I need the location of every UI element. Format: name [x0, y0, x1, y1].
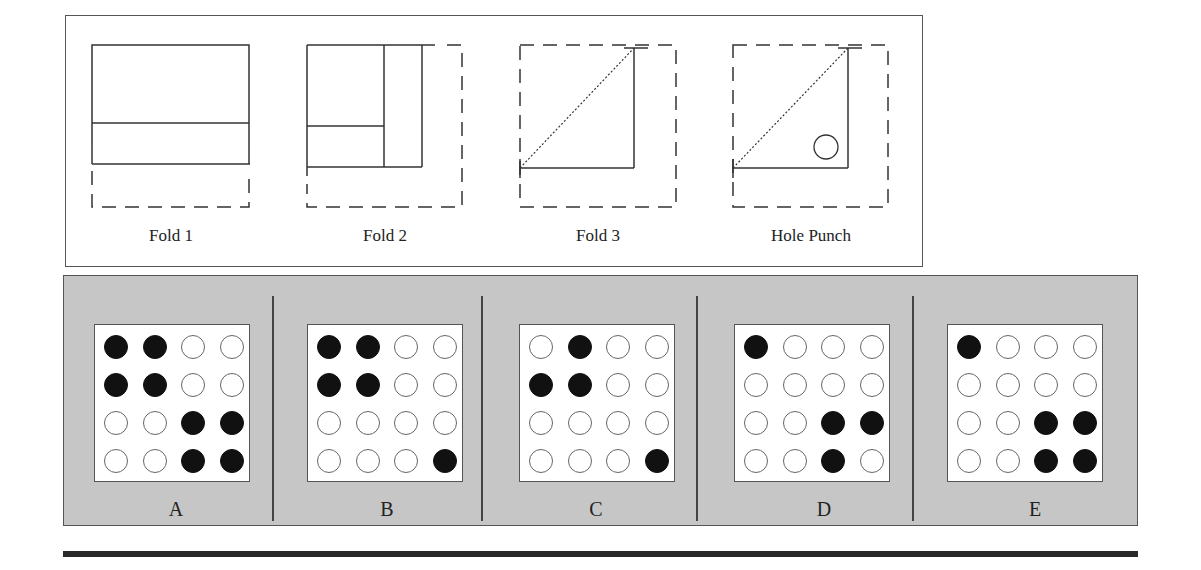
empty-hole-icon [821, 373, 845, 397]
hole-punch-label: Hole Punch [736, 226, 886, 246]
filled-hole-icon [529, 373, 553, 397]
filled-hole-icon [433, 449, 457, 473]
empty-hole-icon [606, 411, 630, 435]
empty-hole-icon [529, 411, 553, 435]
filled-hole-icon [104, 373, 128, 397]
hole-grid [94, 324, 250, 482]
empty-hole-icon [606, 335, 630, 359]
empty-hole-icon [394, 373, 418, 397]
filled-hole-icon [568, 335, 592, 359]
answer-options-panel: A B C D E [63, 275, 1138, 526]
hole-grid [734, 324, 890, 482]
filled-hole-icon [1073, 411, 1097, 435]
empty-hole-icon [996, 411, 1020, 435]
filled-hole-icon [1034, 449, 1058, 473]
filled-hole-icon [356, 335, 380, 359]
empty-hole-icon [317, 449, 341, 473]
empty-hole-icon [356, 411, 380, 435]
empty-hole-icon [529, 335, 553, 359]
answer-option-a[interactable]: A [64, 276, 272, 526]
fold-2-diagram [307, 45, 462, 207]
hole-grid [307, 324, 463, 482]
bottom-rule [63, 551, 1138, 557]
empty-hole-icon [645, 373, 669, 397]
empty-hole-icon [568, 411, 592, 435]
filled-hole-icon [104, 335, 128, 359]
empty-hole-icon [181, 335, 205, 359]
hole-grid [519, 324, 675, 482]
empty-hole-icon [821, 335, 845, 359]
punched-hole-icon [814, 135, 838, 159]
empty-hole-icon [860, 449, 884, 473]
empty-hole-icon [783, 373, 807, 397]
fold-1-label: Fold 1 [96, 226, 246, 246]
empty-hole-icon [744, 373, 768, 397]
empty-hole-icon [1073, 373, 1097, 397]
fold-3-label: Fold 3 [523, 226, 673, 246]
filled-hole-icon [317, 373, 341, 397]
empty-hole-icon [568, 449, 592, 473]
answer-option-d[interactable]: D [698, 276, 912, 526]
empty-hole-icon [143, 449, 167, 473]
empty-hole-icon [860, 373, 884, 397]
filled-hole-icon [181, 449, 205, 473]
empty-hole-icon [143, 411, 167, 435]
answer-option-c[interactable]: C [483, 276, 696, 526]
empty-hole-icon [957, 373, 981, 397]
hole-punch-diagram [733, 45, 888, 207]
empty-hole-icon [356, 449, 380, 473]
empty-hole-icon [220, 335, 244, 359]
filled-hole-icon [1034, 411, 1058, 435]
filled-hole-icon [645, 449, 669, 473]
option-label: E [1015, 498, 1055, 521]
empty-hole-icon [181, 373, 205, 397]
filled-hole-icon [356, 373, 380, 397]
filled-hole-icon [143, 335, 167, 359]
filled-hole-icon [143, 373, 167, 397]
empty-hole-icon [957, 411, 981, 435]
empty-hole-icon [645, 411, 669, 435]
filled-hole-icon [860, 411, 884, 435]
option-label: B [367, 498, 407, 521]
filled-hole-icon [821, 411, 845, 435]
filled-hole-icon [220, 449, 244, 473]
fold-2-label: Fold 2 [310, 226, 460, 246]
empty-hole-icon [433, 335, 457, 359]
empty-hole-icon [606, 373, 630, 397]
empty-hole-icon [860, 335, 884, 359]
empty-hole-icon [645, 335, 669, 359]
filled-hole-icon [744, 335, 768, 359]
filled-hole-icon [821, 449, 845, 473]
empty-hole-icon [317, 411, 341, 435]
filled-hole-icon [957, 335, 981, 359]
empty-hole-icon [744, 449, 768, 473]
empty-hole-icon [1073, 335, 1097, 359]
empty-hole-icon [220, 373, 244, 397]
empty-hole-icon [957, 449, 981, 473]
fold-1-diagram [92, 45, 250, 207]
folding-steps-panel: Fold 1 Fold 2 Fold 3 Hole Punch [65, 15, 923, 267]
filled-hole-icon [220, 411, 244, 435]
answer-option-b[interactable]: B [274, 276, 481, 526]
fold-3-diagram [520, 45, 676, 207]
empty-hole-icon [394, 449, 418, 473]
hole-grid [947, 324, 1103, 482]
empty-hole-icon [104, 449, 128, 473]
empty-hole-icon [606, 449, 630, 473]
empty-hole-icon [996, 335, 1020, 359]
empty-hole-icon [783, 449, 807, 473]
filled-hole-icon [181, 411, 205, 435]
empty-hole-icon [996, 373, 1020, 397]
empty-hole-icon [433, 411, 457, 435]
answer-option-e[interactable]: E [914, 276, 1139, 526]
empty-hole-icon [1034, 373, 1058, 397]
empty-hole-icon [744, 411, 768, 435]
option-label: D [804, 498, 844, 521]
empty-hole-icon [433, 373, 457, 397]
empty-hole-icon [783, 335, 807, 359]
empty-hole-icon [104, 411, 128, 435]
empty-hole-icon [996, 449, 1020, 473]
filled-hole-icon [1073, 449, 1097, 473]
empty-hole-icon [394, 411, 418, 435]
empty-hole-icon [394, 335, 418, 359]
